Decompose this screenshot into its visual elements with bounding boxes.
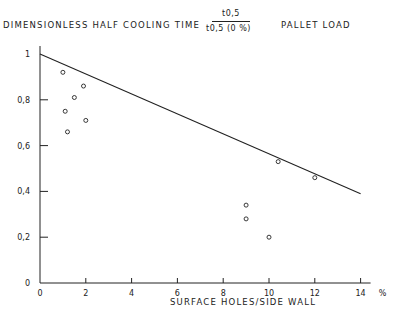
chart-plot-area: 02468101214%00,20,40,60,81 bbox=[0, 0, 394, 317]
data-point bbox=[244, 217, 248, 221]
data-point bbox=[84, 118, 88, 122]
data-point bbox=[276, 160, 280, 164]
x-tick-label: 2 bbox=[83, 289, 88, 298]
x-axis-label: SURFACE HOLES/SIDE WALL bbox=[170, 297, 316, 307]
y-tick-label: 0 bbox=[25, 279, 30, 288]
data-point bbox=[313, 176, 317, 180]
trend-line bbox=[40, 54, 361, 194]
x-tick-label: 14 bbox=[356, 289, 366, 298]
data-point bbox=[65, 130, 69, 134]
data-point bbox=[267, 235, 271, 239]
data-point bbox=[63, 109, 67, 113]
data-point bbox=[244, 203, 248, 207]
y-tick-label: 0,8 bbox=[17, 96, 30, 105]
data-point bbox=[61, 70, 65, 74]
y-tick-label: 1 bbox=[25, 50, 30, 59]
x-tick-label: 0 bbox=[37, 289, 42, 298]
y-tick-label: 0,4 bbox=[17, 187, 30, 196]
y-tick-label: 0,6 bbox=[17, 142, 30, 151]
x-tick-label: 4 bbox=[129, 289, 134, 298]
x-unit-label: % bbox=[379, 289, 387, 298]
data-point bbox=[82, 84, 86, 88]
y-tick-label: 0,2 bbox=[17, 233, 30, 242]
data-point bbox=[72, 96, 76, 100]
